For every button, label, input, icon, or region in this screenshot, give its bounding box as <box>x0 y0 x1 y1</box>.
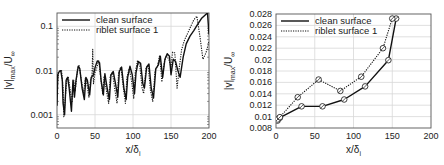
x-tick-label: 100 <box>346 131 361 141</box>
y-tick-label: 0.018 <box>249 66 272 76</box>
y-tick-label: 0.014 <box>249 89 272 99</box>
data-point-marker <box>358 74 364 80</box>
data-point-marker <box>299 104 305 110</box>
legend-entry-label: riblet surface 1 <box>96 24 158 35</box>
data-point-marker <box>386 57 392 63</box>
data-point-marker <box>320 104 326 110</box>
x-tick-label: 0 <box>273 131 278 141</box>
y-tick-label: 0.026 <box>249 20 272 30</box>
y-axis-label: |v|max/U∞ <box>3 51 16 89</box>
x-axis-label: x/δi <box>346 144 361 157</box>
y-tick-label: 0.024 <box>249 32 272 42</box>
x-axis-ticks: 050100150200 <box>54 131 216 141</box>
x-tick-label: 150 <box>163 131 178 141</box>
x-tick-label: 150 <box>385 131 400 141</box>
y-tick-label: 0.012 <box>249 100 272 110</box>
data-point-marker <box>341 97 347 103</box>
y-axis-ticks: 0.0010.010.1 <box>30 21 53 119</box>
x-tick-label: 200 <box>201 131 216 141</box>
data-point-marker <box>362 84 368 90</box>
x-tick-label: 200 <box>423 131 438 141</box>
y-axis-label: |v|max/U∞ <box>223 52 236 90</box>
legend-entry-label: riblet surface 1 <box>315 25 377 36</box>
y-tick-label: 0.01 <box>35 66 53 76</box>
data-point-marker <box>277 114 283 120</box>
y-tick-label: 0.001 <box>30 110 53 120</box>
data-point-marker <box>389 16 395 22</box>
data-point-marker <box>295 94 301 100</box>
data-point-marker <box>316 77 322 83</box>
left-chart-log-scale: 0501001502000.0010.010.1x/δi|v|max/U∞cle… <box>0 0 222 165</box>
x-tick-label: 50 <box>90 131 100 141</box>
y-tick-label: 0.1 <box>40 21 53 31</box>
y-axis-ticks: 0.0080.010.0120.0140.0160.0180.020.0220.… <box>249 9 272 133</box>
y-tick-label: 0.016 <box>249 77 272 87</box>
right-chart-plot: 0501001502000.0080.010.0120.0140.0160.01… <box>222 0 444 165</box>
y-tick-label: 0.02 <box>254 55 272 65</box>
y-tick-label: 0.028 <box>249 9 272 19</box>
right-chart-linear-scale: 0501001502000.0080.010.0120.0140.0160.01… <box>222 0 444 165</box>
x-axis-label: x/δi <box>126 144 141 157</box>
data-point-marker <box>380 45 386 51</box>
legend: clean surfaceriblet surface 1 <box>62 14 158 35</box>
x-tick-label: 100 <box>125 131 140 141</box>
x-axis-ticks: 050100150200 <box>273 131 438 141</box>
y-tick-label: 0.01 <box>254 112 272 122</box>
y-tick-label: 0.008 <box>249 123 272 133</box>
x-tick-label: 0 <box>54 131 59 141</box>
data-point-marker <box>338 88 344 94</box>
y-tick-label: 0.022 <box>249 43 272 53</box>
left-chart-plot: 0501001502000.0010.010.1x/δi|v|max/U∞cle… <box>0 0 222 165</box>
x-tick-label: 50 <box>310 131 320 141</box>
